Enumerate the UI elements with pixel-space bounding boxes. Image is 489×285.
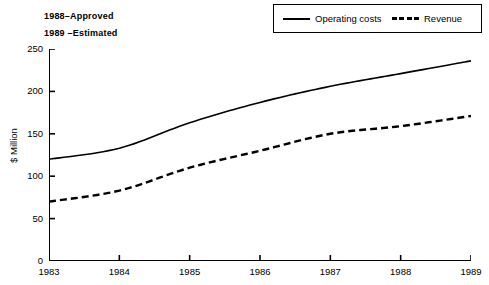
legend-label-revenue: Revenue xyxy=(424,13,462,24)
y-tick-label: 100 xyxy=(11,170,43,181)
plot-svg xyxy=(49,49,471,261)
x-tick-label: 1985 xyxy=(170,266,210,277)
legend-item-operating-costs: Operating costs xyxy=(283,5,382,32)
y-tick-label: 50 xyxy=(11,213,43,224)
x-tick-label: 1983 xyxy=(29,266,69,277)
chart-figure: 1988–Approved 1989 –Estimated Operating … xyxy=(0,0,489,285)
y-axis-ticks xyxy=(49,49,55,261)
legend-item-revenue: Revenue xyxy=(392,5,462,32)
y-tick-label: 0 xyxy=(11,255,43,266)
legend-label-operating-costs: Operating costs xyxy=(315,13,382,24)
y-axis-title: $ Million xyxy=(8,116,19,176)
x-tick-label: 1984 xyxy=(99,266,139,277)
annotation-1988: 1988–Approved xyxy=(44,11,114,21)
chart-legend: Operating costs Revenue xyxy=(273,4,482,33)
solid-line-swatch-icon xyxy=(283,18,310,20)
x-axis-ticks xyxy=(119,255,471,261)
x-tick-label: 1988 xyxy=(381,266,421,277)
y-tick-label: 250 xyxy=(11,43,43,54)
x-tick-label: 1989 xyxy=(451,266,489,277)
series-line-operating-costs xyxy=(49,61,471,159)
y-tick-label: 150 xyxy=(11,128,43,139)
x-tick-label: 1987 xyxy=(310,266,350,277)
dashed-line-swatch-icon xyxy=(392,17,419,20)
annotation-1989: 1989 –Estimated xyxy=(44,28,118,38)
series-line-revenue xyxy=(49,116,471,202)
y-tick-label: 200 xyxy=(11,85,43,96)
x-tick-label: 1986 xyxy=(240,266,280,277)
